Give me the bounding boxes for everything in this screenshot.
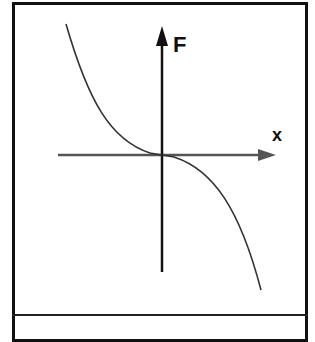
force-curve	[66, 24, 261, 290]
x-axis-label: x	[272, 125, 282, 145]
y-axis	[156, 26, 168, 272]
y-axis-arrow-icon	[156, 26, 168, 46]
x-axis	[58, 149, 276, 161]
x-axis-arrow-icon	[258, 149, 276, 161]
y-axis-label: F	[173, 32, 186, 57]
